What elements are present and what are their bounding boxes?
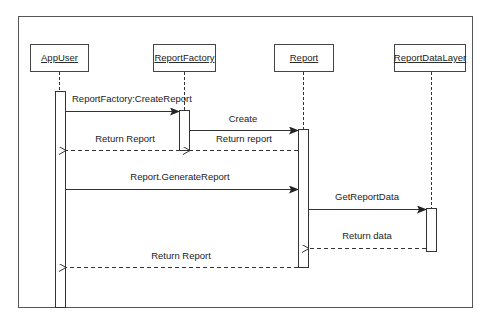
activation-reportfactory <box>180 111 190 151</box>
message-return-report-to-appuser: Return Report <box>66 133 180 151</box>
participant-label: ReportFactory <box>154 52 214 63</box>
message-return-report-to-factory: Return report <box>190 133 298 151</box>
participant-report: Report <box>275 45 334 72</box>
message-create-report: ReportFactory:CreateReport <box>66 93 192 112</box>
message-label: Return data <box>342 230 392 241</box>
message-label: Return Report <box>95 133 155 144</box>
participant-label: AppUser <box>41 52 78 63</box>
message-return-report-final: Return Report <box>66 250 298 268</box>
activation-appuser <box>56 92 66 308</box>
participant-appuser: AppUser <box>31 45 89 72</box>
message-label: Return Report <box>151 250 211 261</box>
participant-label: Report <box>290 52 319 63</box>
message-get-report-data: GetReportData <box>309 191 426 210</box>
message-label: GetReportData <box>335 191 400 202</box>
message-label: Return report <box>216 133 272 144</box>
participant-reportfactory: ReportFactory <box>154 45 216 72</box>
message-label: Report.GenerateReport <box>130 171 230 182</box>
sequence-diagram: AppUser ReportFactory Report ReportDataL… <box>0 0 488 324</box>
participant-reportdatalayer: ReportDataLayer <box>394 45 466 72</box>
message-return-data: Return data <box>309 230 426 249</box>
message-label: ReportFactory:CreateReport <box>72 93 192 104</box>
message-label: Create <box>229 113 258 124</box>
participant-label: ReportDataLayer <box>394 52 466 63</box>
activation-report <box>299 130 309 268</box>
message-generate-report: Report.GenerateReport <box>66 171 298 190</box>
activation-reportdatalayer <box>427 209 437 252</box>
message-create: Create <box>190 113 298 131</box>
